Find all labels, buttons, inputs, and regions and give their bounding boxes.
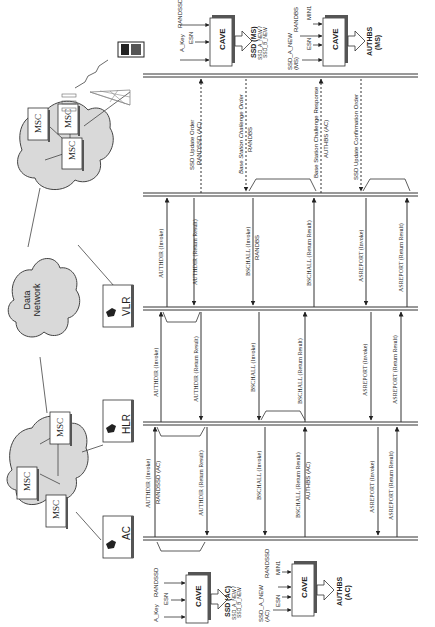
svg-text:ESN: ESN: [306, 38, 312, 50]
msc-box: MSC: [17, 467, 39, 501]
svg-text:RANDBS: RANDBS: [293, 7, 299, 32]
svg-text:BSCHALL (Invoke): BSCHALL (Invoke): [256, 451, 263, 500]
svg-text:SSD Update Confirmation Order: SSD Update Confirmation Order: [353, 94, 359, 180]
msg-base-station-challenge-order: Base Station Challenge Order RANDBS: [238, 79, 316, 191]
svg-text:BSCHALL (Invoke): BSCHALL (Invoke): [250, 343, 257, 392]
svg-text:ESN: ESN: [163, 593, 169, 605]
svg-text:BSCHALL (Return Result): BSCHALL (Return Result): [297, 338, 304, 404]
lifeline-ms: [143, 74, 418, 77]
link-data-network-home: [40, 357, 47, 413]
link-data-network-serving: [28, 188, 40, 247]
msg-bschall-invoke-msc-vlr: BSCHALL (Invoke) RANDBS: [245, 198, 260, 305]
cave-label: CAVE: [194, 585, 203, 607]
msg-base-station-challenge-response: Base Station Challenge Response AUTHBS (…: [313, 79, 329, 193]
msg-bschall-invoke-hlr-ac: BSCHALL (Invoke): [256, 427, 265, 535]
svg-text:Base Station Challenge Respons: Base Station Challenge Response: [313, 86, 319, 178]
msg-asreport-invoke-hlr-ac: ASREPORT (Invoke): [369, 427, 378, 535]
cave-block-ac-ssd: A_Key ESN RANDSSD CAVE SSD (AC) SSD_A_NE…: [153, 567, 242, 623]
svg-text:(MS): (MS): [293, 57, 299, 70]
output-arrow-icon: [317, 580, 334, 600]
svg-text:ASREPORT (Return Result): ASREPORT (Return Result): [392, 335, 399, 404]
svg-text:RANDBS: RANDBS: [247, 127, 253, 152]
svg-text:AUTHDIR (Return Result): AUTHDIR (Return Result): [198, 450, 205, 516]
svg-text:Base Station Challenge Order: Base Station Challenge Order: [238, 93, 244, 174]
svg-text:(MS): (MS): [374, 35, 382, 50]
svg-text:RANDSSD: RANDSSD: [264, 548, 270, 578]
ac-label: AC: [121, 526, 132, 540]
svg-text:(AC): (AC): [344, 585, 352, 600]
data-network-cloud: Data Network: [8, 258, 79, 336]
msc-label: MSC: [51, 500, 61, 519]
cave-label: CAVE: [218, 28, 227, 50]
hlr-label: HLR: [121, 414, 132, 434]
msg-authdir-invoke-hlr-ac: AUTHDIR (Invoke) RANDSSD (AC): [145, 427, 205, 551]
svg-text:RANDSSD: RANDSSD: [153, 567, 159, 597]
msg-authdir-return-vlr-hlr: AUTHDIR (Return Result): [193, 312, 201, 420]
processing-bracket: [363, 179, 410, 191]
svg-text:A_Key: A_Key: [153, 604, 159, 622]
svg-text:MIN1: MIN1: [275, 560, 281, 575]
msg-ssd-update-order: SSD Update Order RANDSSD (AC): [189, 79, 202, 193]
msg-authdir-return-hlr-ac: AUTHDIR (Return Result): [198, 427, 207, 535]
msg-authdir-invoke-msc-vlr: AUTHDIR (Invoke): [158, 198, 167, 307]
svg-text:AUTHDIR (Invoke): AUTHDIR (Invoke): [145, 459, 152, 508]
svg-text:BSCHALL (Return Result): BSCHALL (Return Result): [295, 452, 302, 518]
svg-text:AUTHBS (AC): AUTHBS (AC): [323, 120, 329, 158]
serving-msc-cloud: MSC MSC MSC: [18, 92, 130, 190]
msc-label: MSC: [67, 141, 77, 160]
cave-label: CAVE: [331, 28, 340, 50]
processing-bracket: [249, 179, 316, 191]
cave-block-ms-ssd: A_Key ESN RANDSSD CAVE SSD (MS) SSD_A_NE…: [177, 0, 268, 66]
svg-text:BSCHALL (Invoke): BSCHALL (Invoke): [245, 227, 252, 276]
msc-box: MSC: [46, 495, 68, 529]
msc-box: MSC: [62, 138, 84, 171]
msc-label: MSC: [55, 418, 65, 437]
svg-text:ESN: ESN: [188, 32, 194, 44]
msg-bschall-return-vlr-hlr: BSCHALL (Return Result): [297, 312, 305, 422]
svg-text:ASREPORT (Invoke): ASREPORT (Invoke): [369, 461, 376, 513]
svg-text:RANDSSD: RANDSSD: [177, 0, 183, 28]
output-arrow-icon: [348, 31, 365, 51]
lifeline-ac: [143, 537, 418, 540]
msc-box: MSC: [58, 104, 80, 136]
processing-bracket: [157, 542, 205, 551]
svg-text:SSD_B_NEW: SSD_B_NEW: [236, 587, 242, 618]
svg-text:AUTHDIR (Invoke): AUTHDIR (Invoke): [153, 348, 160, 397]
svg-text:ESN: ESN: [275, 595, 281, 607]
svg-text:AUTHBS (AC): AUTHBS (AC): [305, 462, 311, 500]
svg-text:AUTHDIR (Return Result): AUTHDIR (Return Result): [193, 336, 200, 402]
svg-text:AUTHBS: AUTHBS: [366, 27, 373, 56]
msc-label: MSC: [63, 109, 73, 128]
msc-box: MSC: [50, 412, 72, 446]
svg-text:SSD_B_NEW: SSD_B_NEW: [262, 27, 268, 58]
svg-text:SSD Update Order: SSD Update Order: [189, 120, 195, 170]
data-network-label-1: Data: [22, 290, 32, 309]
ac-node: AC: [76, 512, 134, 558]
cave-label: CAVE: [300, 576, 309, 598]
processing-bracket: [261, 411, 305, 420]
ssd-update-sequence-diagram: MSC MSC MSC Data Network: [0, 0, 435, 627]
svg-text:BSCHALL (Return Result): BSCHALL (Return Result): [306, 220, 313, 286]
svg-text:(AC): (AC): [264, 610, 270, 622]
svg-text:ASREPORT (Return Result): ASREPORT (Return Result): [388, 451, 395, 520]
msg-bschall-return-msc-vlr: BSCHALL (Return Result): [306, 198, 314, 307]
lifeline-vlr: [143, 307, 418, 310]
msg-bschall-return-hlr-ac: BSCHALL (Return Result) AUTHBS (AC): [295, 427, 311, 537]
svg-text:ASREPORT (Invoke): ASREPORT (Invoke): [358, 230, 365, 282]
svg-text:AUTHBS: AUTHBS: [336, 577, 343, 606]
svg-text:RANDBS: RANDBS: [254, 235, 260, 260]
processing-bracket: [163, 312, 200, 322]
msg-asreport-invoke-msc-vlr: ASREPORT (Invoke): [358, 198, 366, 305]
data-network-label-2: Network: [32, 283, 42, 317]
msc-label: MSC: [33, 114, 43, 133]
vlr-label: VLR: [121, 297, 132, 316]
msg-asreport-return-hlr-ac: ASREPORT (Return Result): [388, 427, 397, 537]
svg-text:AUTHDIR (Invoke): AUTHDIR (Invoke): [158, 229, 165, 278]
svg-text:MIN1: MIN1: [306, 5, 312, 20]
home-msc-cloud: MSC MSC MSC: [7, 412, 88, 529]
msg-asreport-return-vlr-hlr: ASREPORT (Return Result): [392, 312, 401, 422]
msg-authdir-return-msc-vlr: AUTHDIR (Return Result): [192, 198, 199, 305]
cave-block-ac-authbs: SSD_A_NEW (AC) ESN RANDSSD MIN1 CAVE AUT…: [258, 548, 352, 622]
processing-bracket: [157, 427, 205, 436]
hlr-node: HLR: [82, 400, 134, 452]
